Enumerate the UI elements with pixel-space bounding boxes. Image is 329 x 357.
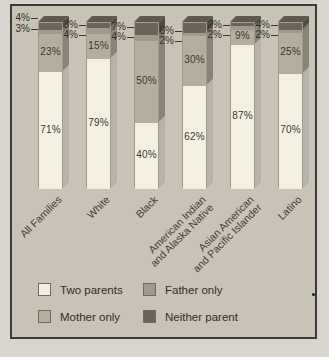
legend-label-mother-only: Mother only [60, 311, 120, 323]
legend-swatch-neither-parent [143, 310, 156, 323]
legend: Two parentsFather onlyMother onlyNeither… [38, 283, 293, 323]
legend-swatch-father-only [143, 283, 156, 296]
legend-item-mother-only: Mother only [38, 310, 143, 323]
legend-item-two-parents: Two parents [38, 283, 143, 296]
legend-label-neither-parent: Neither parent [165, 311, 238, 323]
legend-label-father-only: Father only [165, 284, 223, 296]
legend-swatch-two-parents [38, 283, 51, 296]
legend-label-two-parents: Two parents [60, 284, 123, 296]
legend-swatch-mother-only [38, 310, 51, 323]
legend-item-neither-parent: Neither parent [143, 310, 293, 323]
speck-artifact [312, 293, 315, 296]
legend-item-father-only: Father only [143, 283, 293, 296]
chart-screenshot: 4%3%23%71%3%4%15%79%7%4%50%40%6%2%30%62%… [0, 0, 329, 357]
